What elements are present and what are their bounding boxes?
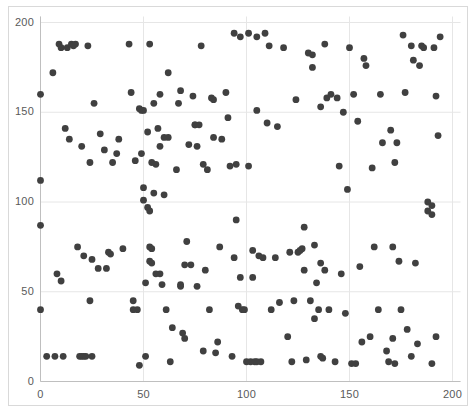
data-point (363, 62, 370, 69)
x-axis-tick-label: 0 (21, 388, 61, 400)
data-point (107, 251, 114, 258)
data-point (431, 44, 438, 51)
data-point (253, 33, 260, 40)
data-point (389, 243, 396, 250)
data-point (346, 44, 353, 51)
axis-lines (41, 17, 461, 382)
data-point (233, 217, 240, 224)
data-point (58, 278, 65, 285)
data-point (157, 270, 164, 277)
data-point (237, 33, 244, 40)
data-point (311, 315, 318, 322)
plot-area: 200150100500050100150200 (0, 0, 476, 413)
data-point (194, 283, 201, 290)
data-point (301, 224, 308, 231)
data-point (433, 333, 440, 340)
data-point (429, 211, 436, 218)
data-point (416, 62, 423, 69)
data-point (128, 89, 135, 96)
data-point (150, 100, 157, 107)
data-point (408, 353, 415, 360)
data-point (210, 134, 217, 141)
data-point (89, 256, 96, 263)
data-point (268, 306, 275, 313)
data-point (377, 91, 384, 98)
data-point (284, 333, 291, 340)
data-point (429, 202, 436, 209)
data-point (37, 222, 44, 229)
data-point (37, 177, 44, 184)
data-point (206, 306, 213, 313)
data-point (78, 143, 85, 150)
data-point (155, 125, 162, 132)
data-point (299, 245, 306, 252)
data-point (140, 197, 147, 204)
data-point (375, 306, 382, 313)
data-point (293, 96, 300, 103)
data-point (404, 326, 411, 333)
data-point (272, 254, 279, 261)
data-point (54, 270, 61, 277)
data-point (157, 143, 164, 150)
data-point (148, 245, 155, 252)
data-point (356, 263, 363, 270)
data-point (317, 103, 324, 110)
data-point (391, 360, 398, 367)
data-point (37, 306, 44, 313)
data-point (369, 164, 376, 171)
plot-canvas (0, 0, 476, 413)
data-point (126, 41, 133, 48)
data-point (344, 186, 351, 193)
data-point (169, 324, 176, 331)
data-point (37, 91, 44, 98)
data-point (97, 130, 104, 137)
data-point (429, 360, 436, 367)
data-point (200, 161, 207, 168)
data-point (109, 159, 116, 166)
data-point (74, 243, 81, 250)
data-point (319, 355, 326, 362)
data-point (321, 267, 328, 274)
data-point (258, 358, 265, 365)
data-point (140, 107, 147, 114)
data-point (66, 136, 73, 143)
data-point (309, 64, 316, 71)
data-point (159, 281, 166, 288)
data-point (313, 279, 320, 286)
data-point (87, 159, 94, 166)
data-point (266, 42, 273, 49)
data-point (311, 242, 318, 249)
data-point (290, 297, 297, 304)
data-point (410, 57, 417, 64)
data-point (80, 252, 87, 259)
data-point (274, 123, 281, 130)
x-axis-tick-label: 200 (433, 388, 473, 400)
data-point (146, 208, 153, 215)
data-point (134, 306, 141, 313)
data-point (152, 161, 159, 168)
data-point (276, 299, 283, 306)
data-point (72, 41, 79, 48)
data-point (173, 166, 180, 173)
data-point (58, 44, 65, 51)
data-point (214, 339, 221, 346)
data-point (340, 109, 347, 116)
data-point (241, 306, 248, 313)
data-point (43, 353, 50, 360)
data-point (245, 30, 252, 37)
data-point (412, 260, 419, 267)
data-point (190, 93, 197, 100)
data-point (301, 267, 308, 274)
data-point (332, 358, 339, 365)
data-point (132, 157, 139, 164)
data-point (142, 353, 149, 360)
data-point (103, 265, 110, 272)
data-point (181, 335, 188, 342)
data-point (338, 270, 345, 277)
data-point (420, 44, 427, 51)
data-point (288, 358, 295, 365)
data-point (361, 55, 368, 62)
data-point (328, 91, 335, 98)
data-point (350, 91, 357, 98)
y-axis-tick-label: 200 (6, 16, 34, 28)
